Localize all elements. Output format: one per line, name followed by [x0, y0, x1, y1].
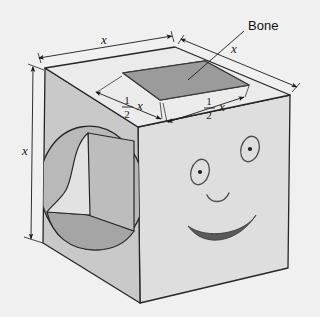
frac-right-variable: x	[218, 99, 225, 114]
left-pupil	[198, 170, 202, 174]
bone-label: Bone	[248, 18, 278, 33]
cavity-back-wall	[88, 133, 134, 231]
label-edge-vertical-left: x	[21, 143, 28, 158]
frac-left-variable: x	[136, 98, 143, 113]
right-pupil	[248, 147, 252, 151]
box-diagram-svg: x x x 1 2 x	[0, 0, 320, 317]
frac-left-denominator: 2	[124, 108, 130, 120]
right-face	[138, 95, 290, 303]
frac-left-numerator: 1	[124, 94, 130, 106]
label-edge-top-right: x	[230, 41, 237, 56]
frac-right-denominator: 2	[206, 109, 212, 121]
frac-right-numerator: 1	[206, 95, 212, 107]
diagram-canvas: x x x 1 2 x	[0, 0, 320, 317]
label-edge-top-left: x	[100, 32, 107, 47]
